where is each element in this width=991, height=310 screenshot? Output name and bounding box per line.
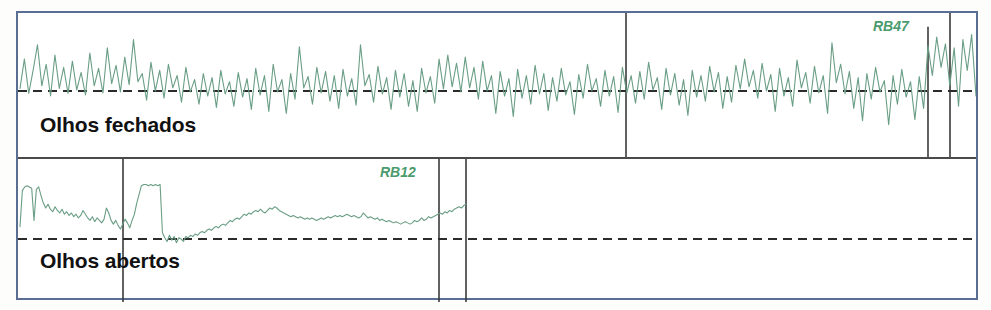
waveform-open — [20, 184, 466, 242]
eeg-trace-open — [18, 159, 976, 302]
panel-label-olhos-abertos: Olhos abertos — [40, 249, 180, 273]
eeg-figure: RB47 Olhos fechados RB12 Olhos abertos — [0, 0, 991, 310]
panel-olhos-abertos: RB12 Olhos abertos — [18, 159, 976, 302]
trace-tag-rb47: RB47 — [873, 18, 909, 34]
waveform-closed — [20, 35, 976, 125]
panel-olhos-fechados: RB47 Olhos fechados — [18, 13, 976, 159]
figure-frame: RB47 Olhos fechados RB12 Olhos abertos — [16, 11, 978, 300]
trace-tag-rb12: RB12 — [380, 164, 416, 180]
panel-label-olhos-fechados: Olhos fechados — [40, 113, 196, 137]
